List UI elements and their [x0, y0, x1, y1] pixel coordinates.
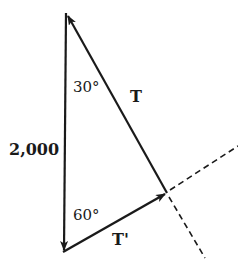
dashed-extension-lower: [169, 197, 205, 258]
bottom-angle-label: 60°: [73, 206, 100, 224]
tension-t-label: T: [130, 87, 142, 106]
tension-t-vector: [68, 16, 167, 193]
dashed-extension-upper: [170, 146, 238, 190]
top-angle-label: 30°: [73, 78, 100, 96]
tension-t-prime-label: T': [112, 230, 129, 249]
vertical-force-vector: [64, 13, 66, 250]
vertical-force-label: 2,000: [9, 140, 59, 159]
vector-diagram: 30° T 2,000 60° T': [0, 0, 238, 270]
